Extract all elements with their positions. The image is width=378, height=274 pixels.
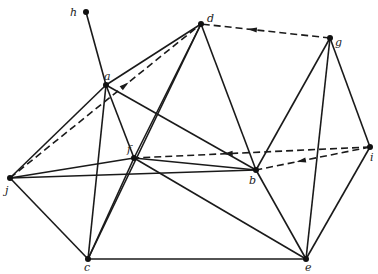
node-label-b: b bbox=[249, 174, 256, 187]
edge-d-c bbox=[88, 24, 201, 259]
edge-j-c bbox=[10, 178, 88, 259]
solid-edges bbox=[10, 12, 370, 259]
node-i bbox=[367, 144, 373, 150]
node-g bbox=[327, 35, 333, 41]
node-label-i: i bbox=[370, 151, 374, 164]
node-label-j: j bbox=[2, 184, 9, 197]
node-label-h: h bbox=[70, 6, 77, 19]
edge-h-a bbox=[86, 12, 106, 85]
edge-f-c bbox=[88, 158, 134, 259]
node-f bbox=[131, 155, 137, 161]
edge-f-e bbox=[134, 158, 306, 259]
node-label-g: g bbox=[335, 36, 342, 49]
graph-diagram: hadgfbijce bbox=[0, 0, 378, 274]
node-d bbox=[198, 21, 204, 27]
node-h bbox=[83, 9, 89, 15]
arrowhead-icon bbox=[297, 157, 307, 162]
dashed-edge-g-d bbox=[201, 24, 330, 38]
node-label-e: e bbox=[305, 261, 312, 274]
edge-g-i bbox=[330, 38, 370, 147]
edge-g-e bbox=[306, 38, 330, 259]
dashed-edge-i-f bbox=[134, 147, 370, 158]
edge-a-c bbox=[88, 85, 106, 259]
arrowhead-icon bbox=[120, 82, 129, 90]
node-j bbox=[7, 175, 13, 181]
arrowhead-icon bbox=[248, 27, 258, 32]
edge-j-b bbox=[10, 170, 256, 178]
dashed-edge-j-d bbox=[10, 24, 201, 178]
edge-a-b bbox=[106, 85, 256, 170]
node-b bbox=[253, 167, 259, 173]
node-label-a: a bbox=[104, 70, 111, 83]
node-label-d: d bbox=[207, 12, 214, 25]
node-label-c: c bbox=[84, 261, 90, 274]
edge-b-e bbox=[256, 170, 306, 259]
edge-d-b bbox=[201, 24, 256, 170]
